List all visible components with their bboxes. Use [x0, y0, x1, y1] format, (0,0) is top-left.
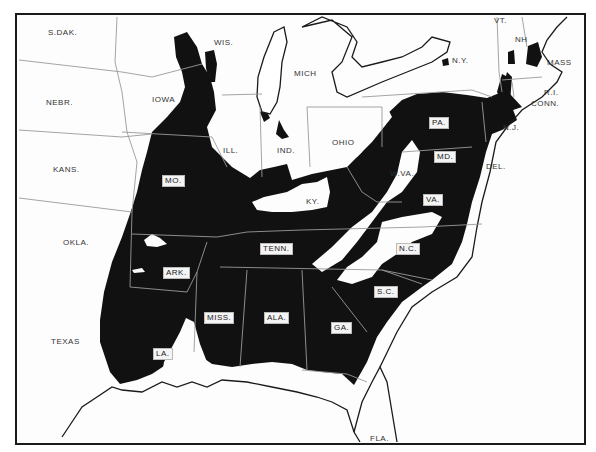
label-tennessee: TENN. — [260, 243, 293, 255]
label-michigan: MICH — [294, 70, 316, 78]
label-maryland: MD. — [434, 151, 456, 163]
label-arkansas: ARK. — [163, 267, 190, 279]
map-frame: S.DAK. NEBR. KANS. OKLA. TEXAS IOWA WIS.… — [15, 13, 586, 445]
label-louisiana: LA. — [153, 348, 173, 360]
label-south-carolina: S.C. — [374, 286, 398, 298]
label-illinois: ILL. — [223, 147, 238, 155]
label-new-york: N.Y. — [452, 57, 469, 65]
label-massachusetts: MASS — [547, 59, 572, 67]
label-ohio: OHIO — [332, 139, 354, 147]
label-oklahoma: OKLA. — [63, 239, 89, 247]
label-virginia: VA. — [423, 194, 443, 206]
shaded-region — [100, 32, 542, 385]
label-kentucky: KY. — [306, 198, 319, 206]
label-wisconsin: WIS. — [214, 39, 233, 47]
label-south-dakota: S.DAK. — [48, 29, 77, 37]
label-new-jersey: N.J. — [503, 124, 519, 132]
label-texas: TEXAS — [51, 338, 80, 346]
label-vermont: VT. — [494, 17, 507, 25]
label-connecticut: CONN. — [531, 100, 559, 108]
label-pennsylvania: PA. — [429, 117, 449, 129]
map-svg — [17, 15, 584, 443]
label-delaware: DEL. — [486, 163, 506, 171]
label-alabama: ALA. — [264, 312, 289, 324]
label-north-carolina: N.C. — [396, 243, 420, 255]
label-west-virginia: W.VA. — [390, 170, 414, 178]
label-missouri: MO. — [162, 175, 185, 187]
label-nebraska: NEBR. — [46, 99, 73, 107]
label-kansas: KANS. — [53, 166, 80, 174]
label-rhode-island: R.I. — [544, 89, 558, 97]
label-indiana: IND. — [277, 147, 295, 155]
label-new-hampshire: NH — [515, 36, 528, 44]
label-iowa: IOWA — [152, 96, 175, 104]
label-florida: FLA. — [370, 435, 389, 443]
label-mississippi: MISS. — [204, 312, 234, 324]
label-georgia: GA. — [331, 322, 352, 334]
